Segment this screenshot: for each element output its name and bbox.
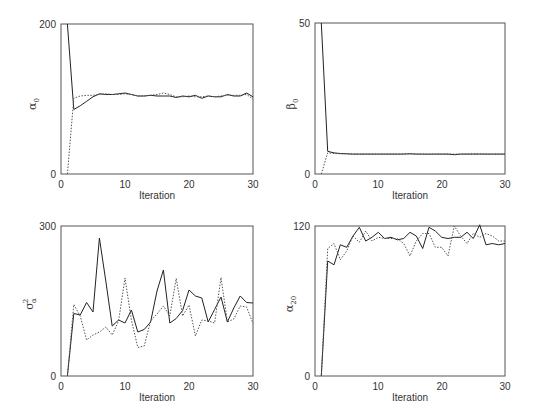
series-solid [321,225,505,376]
x-tick-20: 20 [183,179,195,190]
y-tick-top: 300 [39,221,56,232]
series-dotted [321,226,505,376]
x-tick-0: 0 [58,179,64,190]
figure: 200 0 0 10 20 30 Iteration α0 50 0 0 10 … [0,0,534,416]
y-tick-top: 50 [299,18,311,29]
y-tick-bottom: 0 [304,169,310,180]
y-tick-top: 120 [293,221,310,232]
series-solid [321,23,505,155]
x-tick-20: 20 [436,179,448,190]
x-axis-label: Iteration [392,190,428,201]
series-solid [67,238,253,376]
x-axis-label: Iteration [392,392,428,403]
x-tick-30: 30 [499,381,511,392]
plot-frame [61,226,253,376]
x-tick-10: 10 [372,381,384,392]
x-tick-0: 0 [312,179,318,190]
panel-alpha20: 120 0 0 10 20 30 Iteration α20 [283,221,511,403]
panel-sigma2-alpha: 300 0 0 10 20 30 Iteration σ2α [22,221,259,403]
series-dotted [67,278,253,377]
series-dotted [67,93,253,174]
x-tick-30: 30 [247,381,259,392]
plot-frame [315,226,505,376]
x-axis-label: Iteration [139,190,175,201]
y-axis-label: β0 [285,99,300,110]
x-axis-label: Iteration [139,392,175,403]
series-solid [67,24,253,110]
y-tick-bottom: 0 [50,371,56,382]
x-tick-10: 10 [119,179,131,190]
x-tick-30: 30 [247,179,259,190]
y-tick-bottom: 0 [304,371,310,382]
x-tick-20: 20 [436,381,448,392]
y-axis-label: σ2α [22,298,38,310]
y-tick-top: 200 [39,19,56,30]
x-tick-0: 0 [58,381,64,392]
panel-alpha0: 200 0 0 10 20 30 Iteration α0 [26,19,259,201]
x-tick-0: 0 [312,381,318,392]
series-dotted [321,153,505,174]
y-axis-label: α0 [26,98,41,110]
x-tick-10: 10 [119,381,131,392]
x-tick-10: 10 [372,179,384,190]
y-tick-bottom: 0 [50,169,56,180]
x-tick-20: 20 [183,381,195,392]
y-axis-label: α20 [283,296,298,312]
panel-beta0: 50 0 0 10 20 30 Iteration β0 [285,18,511,201]
plot-frame [315,23,505,174]
x-tick-30: 30 [499,179,511,190]
